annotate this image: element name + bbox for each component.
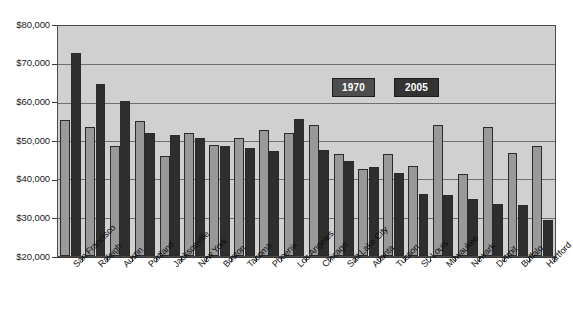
bar-2005-austin bbox=[120, 101, 130, 256]
bars-layer bbox=[58, 26, 555, 256]
y-axis-label-60000: $60,000 bbox=[16, 96, 50, 107]
bar-1970-tacoma bbox=[234, 138, 244, 256]
bar-group bbox=[433, 26, 453, 256]
bar-1970-hartford bbox=[532, 146, 542, 256]
bar-group bbox=[209, 26, 229, 256]
bar-2005-jacksonville bbox=[170, 135, 180, 256]
bar-group bbox=[358, 26, 378, 256]
y-axis-label-70000: $70,000 bbox=[16, 57, 50, 68]
bar-group bbox=[383, 26, 403, 256]
legend-item-2005: 2005 bbox=[394, 78, 439, 97]
y-axis-label-50000: $50,000 bbox=[16, 135, 50, 146]
bar-group bbox=[532, 26, 552, 256]
bar-group bbox=[284, 26, 304, 256]
bar-1970-buffalo bbox=[508, 153, 518, 257]
bar-2005-los-angeles bbox=[294, 119, 304, 256]
bar-group bbox=[60, 26, 80, 256]
y-axis-label-80000: $80,000 bbox=[16, 19, 50, 30]
bar-2005-phoenix bbox=[269, 151, 279, 256]
bar-2005-tacoma bbox=[245, 148, 255, 256]
bar-2005-buffalo bbox=[518, 205, 528, 256]
plot-area bbox=[57, 25, 556, 257]
legend-label-2005: 2005 bbox=[405, 82, 428, 93]
bar-1970-milwaukee bbox=[433, 125, 443, 256]
y-axis-label-30000: $30,000 bbox=[16, 212, 50, 223]
bar-1970-phoenix bbox=[259, 130, 269, 257]
x-axis-labels: San FranciscoRaleighAustinPortlandJackso… bbox=[0, 260, 563, 327]
bar-group bbox=[234, 26, 254, 256]
bar-group bbox=[334, 26, 354, 256]
bar-group bbox=[408, 26, 428, 256]
bar-group bbox=[110, 26, 130, 256]
bar-2005-st-louis bbox=[419, 194, 429, 256]
bar-group bbox=[508, 26, 528, 256]
bar-1970-austin bbox=[110, 146, 120, 256]
bar-group bbox=[483, 26, 503, 256]
bar-1970-san-francisco bbox=[60, 120, 70, 256]
bar-1970-portland bbox=[135, 121, 145, 256]
bar-1970-detroit bbox=[483, 127, 493, 256]
bar-2005-portland bbox=[145, 133, 155, 256]
bar-1970-new-york bbox=[184, 133, 194, 256]
bar-1970-chicago bbox=[309, 125, 319, 256]
bar-group bbox=[85, 26, 105, 256]
legend-item-1970: 1970 bbox=[332, 78, 375, 97]
bar-group bbox=[184, 26, 204, 256]
bar-group bbox=[135, 26, 155, 256]
bar-group bbox=[160, 26, 180, 256]
bar-2005-tucson bbox=[394, 173, 404, 256]
bar-2005-san-francisco bbox=[71, 53, 81, 256]
bar-1970-tucson bbox=[383, 154, 393, 256]
bar-group bbox=[458, 26, 478, 256]
y-axis-label-40000: $40,000 bbox=[16, 173, 50, 184]
legend-label-1970: 1970 bbox=[342, 82, 365, 93]
bar-group bbox=[259, 26, 279, 256]
bar-group bbox=[309, 26, 329, 256]
bar-1970-raleigh bbox=[85, 127, 95, 256]
bar-1970-los-angeles bbox=[284, 133, 294, 256]
